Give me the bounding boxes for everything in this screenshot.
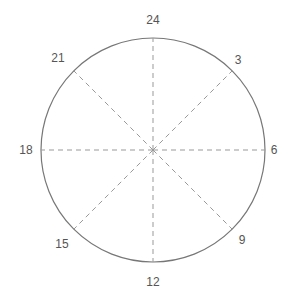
spoke-21 xyxy=(74,71,153,150)
label-9: 9 xyxy=(239,233,246,247)
spoke-9 xyxy=(153,150,232,229)
label-3: 3 xyxy=(235,53,242,67)
label-15: 15 xyxy=(55,237,68,251)
clock-diagram xyxy=(0,0,290,303)
label-18: 18 xyxy=(19,143,32,157)
spokes xyxy=(41,38,265,262)
spoke-15 xyxy=(74,150,153,229)
label-12: 12 xyxy=(146,275,159,289)
label-21: 21 xyxy=(51,51,64,65)
spoke-3 xyxy=(153,71,232,150)
label-24: 24 xyxy=(146,13,159,27)
label-6: 6 xyxy=(271,143,278,157)
